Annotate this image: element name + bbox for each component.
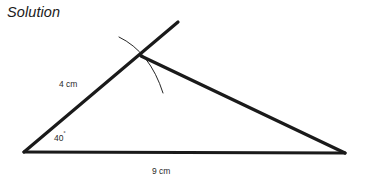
angle-label-40-degrees: 40˚ [54,134,66,143]
figure-canvas: Solution 4 cm 40˚ 9 cm [0,0,371,187]
side-label-4cm: 4 cm [59,80,77,89]
triangle-base-line [24,152,345,153]
degree-symbol-icon: ˚ [63,131,65,138]
side-label-9cm: 9 cm [152,167,170,176]
triangle-right-side-line [141,56,345,153]
triangle-left-side-ray [24,22,178,152]
triangle-diagram [0,0,371,187]
